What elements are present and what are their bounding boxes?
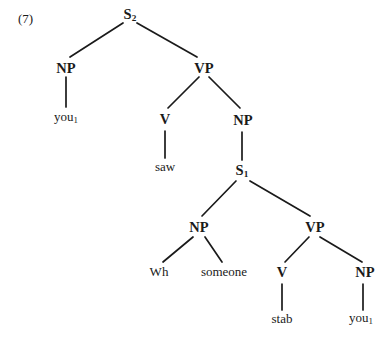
node-v-embedded-label: V	[277, 264, 288, 280]
syntax-tree-figure: (7)	[0, 0, 383, 341]
node-np-object: NP	[233, 113, 253, 128]
edge-s2-np	[70, 23, 123, 57]
edge-s1-vp	[250, 181, 310, 216]
node-np-embedded-object-label: NP	[355, 264, 375, 280]
leaf-wh: Wh	[150, 265, 169, 278]
leaf-you-matrix: you1	[54, 110, 78, 125]
node-s2: S2	[124, 7, 137, 23]
node-s1-subscript: 1	[244, 169, 249, 179]
node-vp-matrix-label: VP	[194, 60, 214, 76]
edge-s2-vp	[137, 23, 197, 57]
node-v-embedded: V	[277, 265, 288, 280]
node-vp-embedded: VP	[305, 220, 325, 235]
node-v-matrix-label: V	[160, 111, 171, 127]
leaf-wh-label: Wh	[150, 264, 169, 279]
node-np-object-label: NP	[233, 112, 253, 128]
node-vp-embedded-label: VP	[305, 219, 325, 235]
edge-np-wh	[163, 237, 193, 262]
leaf-you-matrix-label: you	[54, 109, 74, 124]
edge-vp-v-embedded	[285, 237, 309, 262]
leaf-saw: saw	[155, 160, 175, 173]
leaf-someone: someone	[201, 265, 247, 278]
leaf-you-matrix-subscript: 1	[74, 115, 78, 125]
node-v-matrix: V	[160, 112, 171, 127]
node-s1: S1	[236, 163, 249, 179]
node-np-subject: NP	[56, 61, 76, 76]
leaf-someone-label: someone	[201, 264, 247, 279]
leaf-you-embedded-label: you	[349, 310, 369, 325]
edge-vp-np	[209, 77, 240, 108]
edge-np-someone	[205, 237, 222, 262]
node-np-embedded: NP	[189, 220, 209, 235]
node-np-embedded-object: NP	[355, 265, 375, 280]
node-s2-subscript: 2	[132, 13, 137, 23]
leaf-you-embedded: you1	[349, 311, 373, 326]
leaf-you-embedded-subscript: 1	[369, 316, 373, 326]
leaf-saw-label: saw	[155, 159, 175, 174]
edge-vp-v	[168, 77, 199, 108]
node-vp-matrix: VP	[194, 61, 214, 76]
node-np-subject-label: NP	[56, 60, 76, 76]
leaf-stab: stab	[272, 312, 293, 325]
edge-vp-np-embedded	[320, 237, 362, 262]
leaf-stab-label: stab	[272, 311, 293, 326]
tree-edges	[0, 0, 383, 341]
node-np-embedded-label: NP	[189, 219, 209, 235]
edge-s1-np	[202, 181, 236, 216]
